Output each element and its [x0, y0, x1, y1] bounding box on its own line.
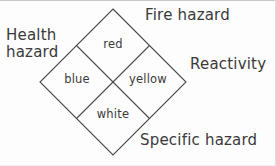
hazard-diamond-diagram: Health hazard Fire hazard Reactivity Spe…	[0, 0, 276, 166]
fire-hazard-label: Fire hazard	[145, 7, 230, 24]
health-hazard-label-line2: hazard	[6, 44, 58, 61]
top-quadrant-label: red	[93, 38, 133, 51]
health-hazard-label-line1: Health	[6, 27, 58, 44]
health-hazard-label: Health hazard	[6, 27, 58, 61]
reactivity-label: Reactivity	[190, 56, 266, 73]
right-quadrant-label: yellow	[124, 73, 172, 86]
specific-hazard-label: Specific hazard	[140, 132, 257, 149]
left-quadrant-label: blue	[57, 73, 97, 86]
bottom-quadrant-label: white	[91, 108, 135, 121]
